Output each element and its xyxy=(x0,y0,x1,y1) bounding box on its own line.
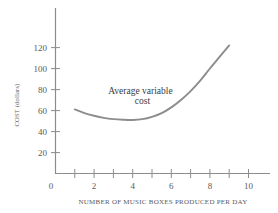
average-variable-cost-curve xyxy=(75,102,189,180)
y-tick-label-60: 60 xyxy=(38,106,48,116)
x-tick-label-6: 6 xyxy=(169,181,174,191)
x-tick-label-10: 10 xyxy=(244,181,254,191)
curve-annotation-line2: cost xyxy=(135,96,151,106)
average-variable-cost-curve-path xyxy=(75,102,185,176)
y-tick-label-120: 120 xyxy=(34,43,48,53)
curve-tmp15 xyxy=(75,102,188,176)
y-tick-label-80: 80 xyxy=(38,85,48,95)
x-tick-label-8: 8 xyxy=(208,181,213,191)
x-axis-title: NUMBER OF MUSIC BOXES PRODUCED PER DAY xyxy=(78,198,247,206)
x-tick-label-2: 2 xyxy=(92,181,97,191)
average-variable-cost-curve-line xyxy=(75,103,178,161)
avc-curve-main xyxy=(75,45,229,120)
curve-tmp8 xyxy=(75,101,180,156)
chart-canvas: 120 100 80 60 40 20 0 2 4 6 8 10 xyxy=(0,0,278,213)
x-tick-label-0: 0 xyxy=(49,181,54,191)
avc-line xyxy=(75,102,188,175)
x-tick-label-4: 4 xyxy=(130,181,135,191)
curve-tmp6 xyxy=(75,101,199,177)
y-tick-label-20: 20 xyxy=(38,148,48,158)
curve-points-raw xyxy=(75,99,229,174)
curve-annotation-line1: Average variable xyxy=(108,86,172,96)
y-tick-label-100: 100 xyxy=(34,64,48,74)
y-tick-label-40: 40 xyxy=(38,127,48,137)
chart-figure: 120 100 80 60 40 20 0 2 4 6 8 10 xyxy=(0,0,278,213)
curve-old xyxy=(75,101,179,156)
y-axis-title: COST (dollars) xyxy=(13,84,21,127)
curve-old6 xyxy=(75,102,179,160)
